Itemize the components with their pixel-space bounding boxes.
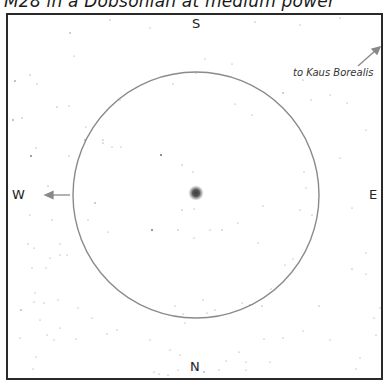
direction-south-label: S <box>192 16 200 31</box>
direction-north-label: N <box>190 359 200 374</box>
arrow-left-icon <box>45 192 70 199</box>
star-field <box>0 0 386 381</box>
arrow-up-right-icon <box>358 47 380 66</box>
direction-east-label: E <box>369 187 377 202</box>
kaus-borealis-label: to Kaus Borealis <box>293 67 373 78</box>
direction-west-label: W <box>12 187 25 202</box>
m28-globular-cluster <box>188 185 204 201</box>
